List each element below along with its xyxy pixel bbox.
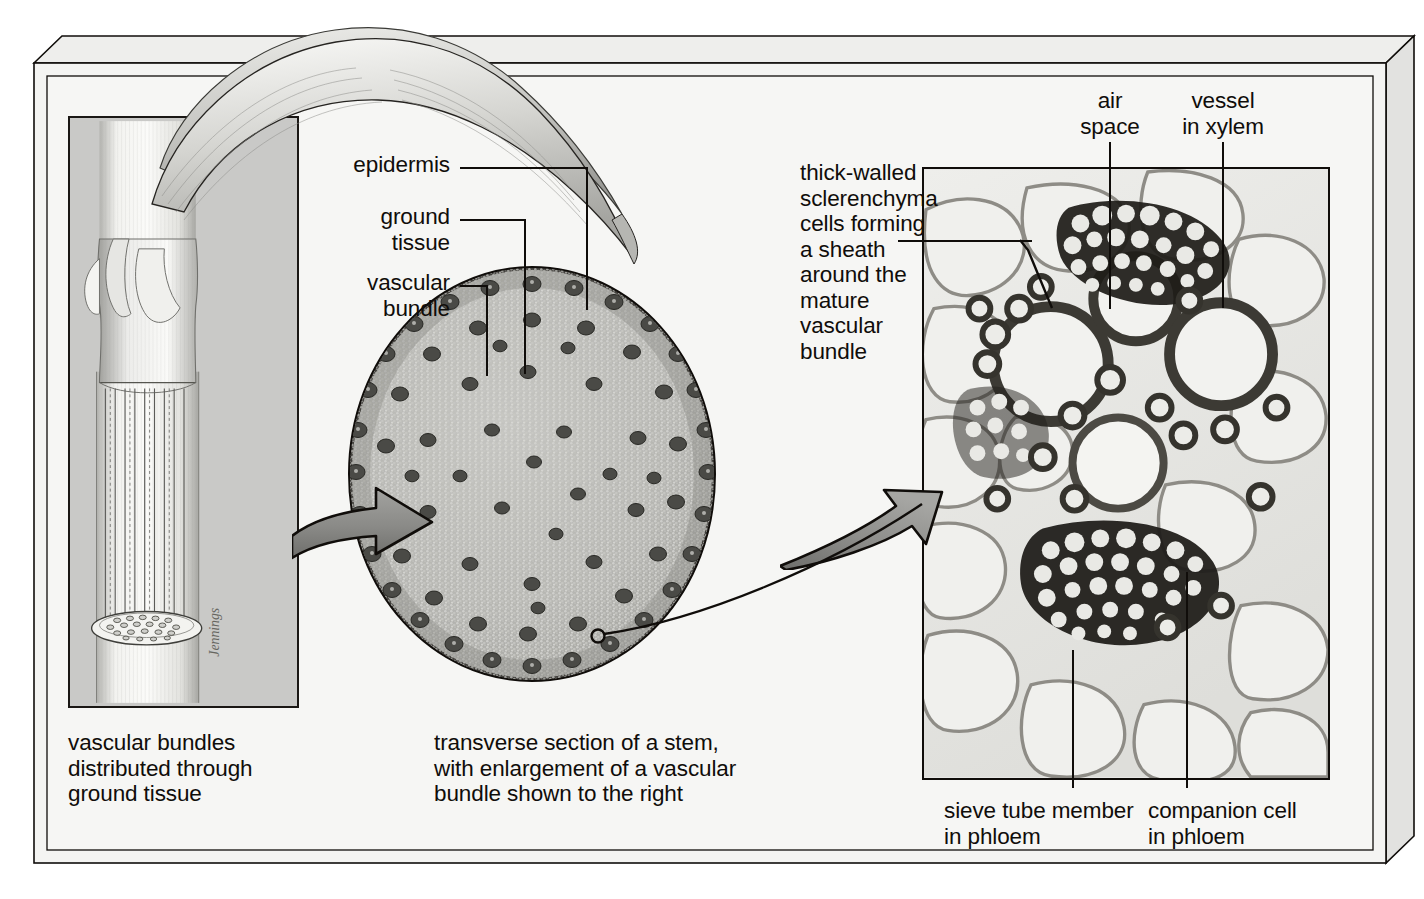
- leader-epidermis-h: [460, 167, 588, 169]
- leader-companion-cell: [1186, 572, 1188, 788]
- leader-vascular-bundle-h: [460, 285, 488, 287]
- leader-vessel-in-xylem: [1222, 142, 1224, 308]
- label-ground-tissue: ground tissue: [270, 204, 450, 255]
- figure-root: Jennings: [0, 0, 1424, 899]
- label-air-space: air space: [1070, 88, 1150, 139]
- label-epidermis: epidermis: [270, 152, 450, 178]
- leader-sieve-tube-member: [1072, 650, 1074, 788]
- leader-vascular-bundle-v: [486, 285, 488, 376]
- leader-air-space: [1109, 142, 1111, 309]
- leader-epidermis-v: [586, 167, 588, 310]
- panel-micrograph: [922, 167, 1330, 780]
- caption-center-panel: transverse section of a stem, with enlar…: [434, 730, 854, 807]
- artist-signature: Jennings: [207, 608, 222, 657]
- leader-ground-tissue-h: [460, 219, 526, 221]
- leader-sclerenchyma-h: [898, 240, 1032, 242]
- leader-ground-tissue-v: [524, 219, 526, 374]
- label-sieve-tube-member: sieve tube member in phloem: [944, 798, 1164, 849]
- leader-sclerenchyma-elbow: [1018, 238, 1058, 312]
- stem-cut-face: [92, 611, 202, 644]
- label-companion-cell: companion cell in phloem: [1148, 798, 1348, 849]
- label-vessel-in-xylem: vessel in xylem: [1158, 88, 1288, 139]
- leader-bundle-to-micrograph: [590, 470, 930, 650]
- label-vascular-bundle: vascular bundle: [270, 270, 450, 321]
- label-thick-walled-sclerenchyma: thick-walled sclerenchyma cells forming …: [800, 160, 940, 364]
- arrow-to-stem-section: [292, 478, 448, 570]
- caption-left-panel: vascular bundles distributed through gro…: [68, 730, 348, 807]
